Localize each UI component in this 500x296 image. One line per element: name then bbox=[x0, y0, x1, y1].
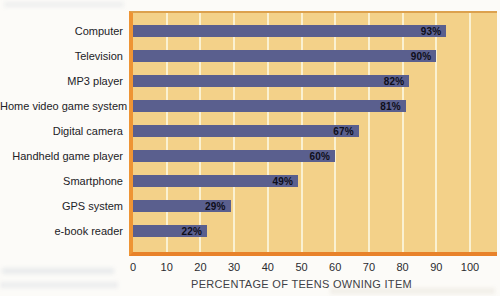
category-label-computer: Computer bbox=[0, 24, 123, 38]
scanned-page: 93%90%82%81%67%60%49%29%22% ComputerTele… bbox=[0, 0, 500, 296]
bar-handheld-game-player: 60% bbox=[133, 150, 335, 162]
bar-value-label: 49% bbox=[273, 176, 294, 187]
x-tick-label-0: 0 bbox=[130, 261, 136, 273]
bar-value-label: 93% bbox=[421, 26, 442, 37]
x-tick-label-70: 70 bbox=[363, 261, 375, 273]
bar-mp3-player: 82% bbox=[133, 75, 409, 87]
x-tick-label-90: 90 bbox=[430, 261, 442, 273]
chart-plot-area: 93%90%82%81%67%60%49%29%22% bbox=[129, 11, 497, 256]
x-tick-label-30: 30 bbox=[228, 261, 240, 273]
gridline-70 bbox=[368, 13, 370, 252]
x-tick-label-60: 60 bbox=[329, 261, 341, 273]
page-showthrough bbox=[0, 282, 118, 288]
bar-e-book-reader: 22% bbox=[133, 225, 207, 237]
category-label-handheld-game-player: Handheld game player bbox=[0, 149, 123, 163]
bar-smartphone: 49% bbox=[133, 175, 298, 187]
bar-value-label: 67% bbox=[333, 126, 354, 137]
bar-gps-system: 29% bbox=[133, 200, 231, 212]
bar-value-label: 81% bbox=[380, 101, 401, 112]
category-label-home-video-game-system: Home video game system bbox=[0, 99, 123, 113]
bar-value-label: 60% bbox=[310, 151, 331, 162]
bar-value-label: 90% bbox=[411, 51, 432, 62]
x-tick-label-20: 20 bbox=[194, 261, 206, 273]
x-tick-label-50: 50 bbox=[295, 261, 307, 273]
page-showthrough bbox=[4, 2, 124, 7]
x-axis-title: PERCENTAGE OF TEENS OWNING ITEM bbox=[133, 278, 470, 290]
bar-home-video-game-system: 81% bbox=[133, 100, 406, 112]
gridline-80 bbox=[402, 13, 404, 252]
x-tick-label-10: 10 bbox=[161, 261, 173, 273]
gridline-90 bbox=[435, 13, 437, 252]
x-tick-label-80: 80 bbox=[396, 261, 408, 273]
category-label-smartphone: Smartphone bbox=[0, 174, 123, 188]
gridline-100 bbox=[469, 13, 471, 252]
bar-value-label: 29% bbox=[205, 201, 226, 212]
category-label-gps-system: GPS system bbox=[0, 199, 123, 213]
bar-television: 90% bbox=[133, 50, 436, 62]
bar-computer: 93% bbox=[133, 25, 446, 37]
bar-value-label: 22% bbox=[182, 226, 203, 237]
category-label-television: Television bbox=[0, 49, 123, 63]
page-showthrough bbox=[2, 268, 114, 274]
x-tick-label-100: 100 bbox=[461, 261, 479, 273]
category-label-mp3-player: MP3 player bbox=[0, 74, 123, 88]
bar-value-label: 82% bbox=[384, 76, 405, 87]
x-tick-label-40: 40 bbox=[262, 261, 274, 273]
category-label-digital-camera: Digital camera bbox=[0, 124, 123, 138]
category-label-e-book-reader: e-book reader bbox=[0, 224, 123, 238]
bar-digital-camera: 67% bbox=[133, 125, 359, 137]
